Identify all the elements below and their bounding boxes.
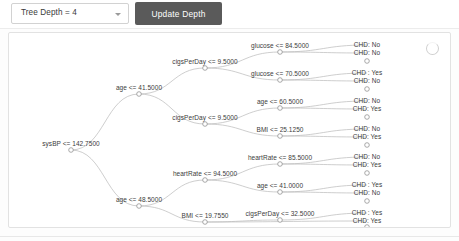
tree-node-dot[interactable] — [365, 143, 370, 148]
tree-leaf-label: CHD: No — [354, 125, 381, 132]
tree-node-dot[interactable] — [137, 204, 142, 209]
tree-node-dot[interactable] — [203, 66, 208, 71]
tree-leaf-node[interactable]: CHD: Yes — [353, 133, 382, 140]
tree-leaf-node[interactable]: CHD: No — [354, 97, 381, 104]
tree-edge — [205, 221, 367, 222]
tree-leaf-label: CHD: Yes — [353, 161, 382, 168]
tree-leaf-node[interactable]: CHD: No — [354, 189, 381, 196]
chevron-down-icon — [115, 13, 121, 16]
tree-leaf-label: CHD: No — [354, 41, 381, 48]
tree-split-label: heartRate <= 85.5000 — [248, 154, 313, 161]
tree-node-dot[interactable] — [365, 199, 370, 204]
tree-nodes: sysBP <= 142.7500age <= 41.5000age <= 48… — [42, 41, 383, 224]
tree-leaf-label: CHD: Yes — [353, 105, 382, 112]
decision-tree-plot: sysBP <= 142.7500age <= 41.5000age <= 48… — [9, 33, 450, 227]
tree-leaf-node[interactable]: CHD: Yes — [353, 161, 382, 168]
tree-depth-select[interactable]: Tree Depth = 4 — [11, 3, 129, 24]
tree-leaf-label: CHD: No — [354, 49, 381, 56]
tree-leaf-node[interactable]: CHD: No — [354, 125, 381, 132]
tree-split-label: age <= 48.5000 — [116, 196, 163, 204]
tree-leaf-label: CHD : Yes — [352, 181, 383, 188]
tree-leaf-label: CHD: No — [354, 153, 381, 160]
tree-node-dot[interactable] — [278, 106, 283, 111]
tree-leaf-label: CHD : Yes — [352, 209, 383, 216]
tree-node-dot[interactable] — [278, 78, 283, 83]
tree-split-label: heartRate <= 94.5000 — [173, 170, 238, 177]
tree-split-node[interactable]: heartRate <= 94.5000 — [173, 170, 238, 183]
tree-node-dot[interactable] — [278, 134, 283, 139]
tree-split-node[interactable]: age <= 41.0000 — [257, 182, 304, 195]
decision-tree-svg: sysBP <= 142.7500age <= 41.5000age <= 48… — [9, 33, 450, 227]
tree-leaf-node[interactable]: CHD: No — [354, 153, 381, 160]
tree-leaf-label: CHD: No — [354, 97, 381, 104]
tree-node-dot[interactable] — [137, 92, 142, 97]
tree-chart-card: sysBP <= 142.7500age <= 41.5000age <= 48… — [8, 32, 451, 228]
tree-leaf-label: CHD: Yes — [353, 217, 382, 224]
tree-node-dot[interactable] — [365, 59, 370, 64]
tree-split-label: age <= 60.5000 — [257, 98, 304, 106]
tree-leaf-node[interactable]: CHD: No — [354, 77, 381, 84]
tree-leaf-label: CHD: Yes — [353, 133, 382, 140]
tree-leaf-label: CHD: No — [354, 77, 381, 84]
tree-depth-select-value: Tree Depth = 4 — [21, 8, 77, 17]
tree-leaf-node[interactable]: CHD: No — [354, 49, 381, 56]
tree-split-node[interactable]: age <= 60.5000 — [257, 98, 304, 110]
tree-node-dot[interactable] — [69, 148, 74, 153]
tree-leaf-node[interactable]: CHD : Yes — [352, 209, 383, 216]
tree-node-dot[interactable] — [278, 162, 283, 167]
tree-split-label: glucose <= 70.5000 — [251, 70, 309, 78]
tree-split-label: cigsPerDay <= 32.5000 — [246, 210, 315, 218]
tree-split-label: BMI <= 25.1250 — [257, 126, 304, 133]
tree-node-dot[interactable] — [365, 225, 370, 227]
tree-node-dot[interactable] — [365, 87, 370, 92]
tree-split-node[interactable]: cigsPerDay <= 9.5000 — [172, 114, 238, 126]
tree-split-label: age <= 41.5000 — [116, 84, 163, 92]
toolbar: Tree Depth = 4 Update Depth — [0, 0, 459, 29]
tree-node-dot[interactable] — [365, 171, 370, 176]
tree-split-label: BMI <= 19.7550 — [182, 212, 229, 219]
tree-leaf-label: CHD : Yes — [352, 69, 383, 76]
tree-split-label: cigsPerDay <= 9.5000 — [172, 58, 238, 66]
loading-spinner-icon — [426, 42, 439, 55]
tree-node-dot[interactable] — [278, 50, 283, 55]
tree-split-label: sysBP <= 142.7500 — [42, 140, 100, 148]
tree-leaf-label: CHD: No — [354, 189, 381, 196]
tree-split-node[interactable]: sysBP <= 142.7500 — [42, 140, 100, 152]
tree-node-dot[interactable] — [203, 178, 208, 183]
page-bottom-divider — [0, 236, 459, 237]
tree-node-dot[interactable] — [203, 122, 208, 127]
tree-leaf-node[interactable]: CHD: Yes — [353, 105, 382, 112]
tree-leaf-node[interactable]: CHD: No — [354, 41, 381, 48]
tree-node-dot[interactable] — [278, 218, 283, 223]
toolbar-divider — [0, 28, 459, 29]
tree-leaf-node[interactable]: CHD: Yes — [353, 217, 382, 224]
tree-leaf-node[interactable]: CHD : Yes — [352, 69, 383, 76]
tree-split-label: glucose <= 84.5000 — [251, 42, 309, 50]
tree-split-node[interactable]: cigsPerDay <= 9.5000 — [172, 58, 238, 71]
tree-leaf-node[interactable]: CHD : Yes — [352, 181, 383, 188]
tree-split-node[interactable]: age <= 41.5000 — [116, 84, 163, 97]
tree-split-label: age <= 41.0000 — [257, 182, 304, 190]
tree-node-dot[interactable] — [278, 190, 283, 195]
tree-split-node[interactable]: BMI <= 19.7550 — [182, 212, 229, 225]
tree-split-node[interactable]: BMI <= 25.1250 — [257, 126, 304, 138]
tree-node-dot[interactable] — [365, 115, 370, 120]
tree-node-dot[interactable] — [203, 220, 208, 225]
tree-split-label: cigsPerDay <= 9.5000 — [172, 114, 238, 122]
tree-split-node[interactable]: age <= 48.5000 — [116, 196, 163, 209]
tree-visualizer-app: Tree Depth = 4 Update Depth sysBP <= 142… — [0, 0, 459, 241]
update-depth-button[interactable]: Update Depth — [135, 2, 222, 25]
